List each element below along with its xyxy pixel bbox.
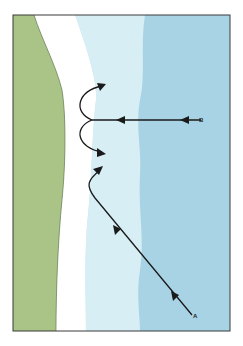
label-a: A xyxy=(193,313,198,319)
wave-diagram: B A xyxy=(0,0,243,346)
label-b: B xyxy=(199,117,204,123)
